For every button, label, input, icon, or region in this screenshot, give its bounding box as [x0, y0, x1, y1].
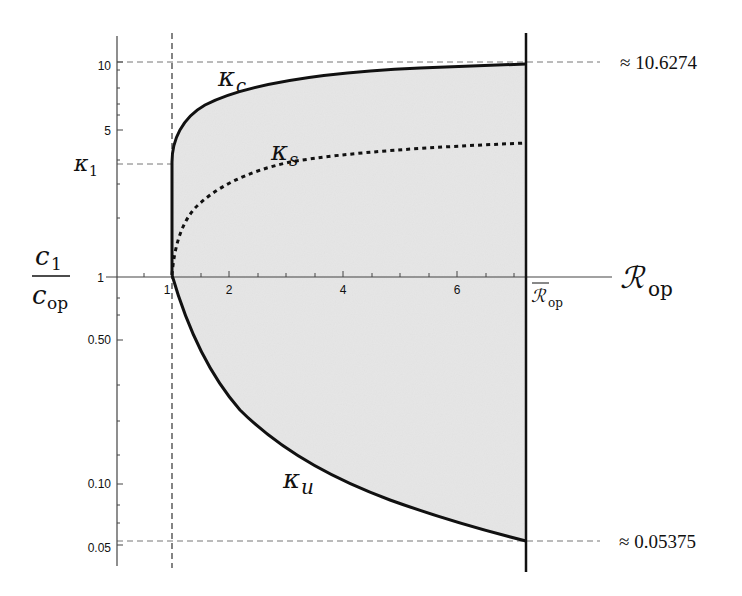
x-tick-6: 6 — [454, 283, 461, 297]
y-ticks — [117, 62, 123, 545]
svg-text:1: 1 — [51, 254, 62, 274]
svg-text:s: s — [289, 149, 298, 170]
svg-text:c: c — [236, 75, 246, 96]
svg-text:u: u — [301, 475, 314, 499]
kappa-u-label: κ u — [282, 464, 314, 499]
y-tick-0.10: 0.10 — [88, 477, 112, 491]
chart-svg: 10 5 1 0.50 0.10 0.05 1 2 4 6 κ 1 κ c κ … — [0, 0, 742, 596]
y-tick-5: 5 — [104, 124, 111, 138]
chart-figure: 10 5 1 0.50 0.10 0.05 1 2 4 6 κ 1 κ c κ … — [0, 0, 742, 596]
kappa-c-label: κ c — [217, 62, 246, 96]
region-texture — [172, 64, 526, 541]
rbar-label: ℛ op — [531, 283, 563, 310]
x-tick-4: 4 — [340, 283, 347, 297]
y-tick-1: 1 — [97, 271, 104, 285]
svg-text:op: op — [47, 293, 68, 313]
svg-text:κ: κ — [217, 62, 235, 92]
lower-value-annotation: ≈ 0.05375 — [619, 531, 696, 552]
svg-text:ℛ: ℛ — [620, 261, 646, 294]
svg-text:κ: κ — [282, 464, 300, 494]
svg-text:1: 1 — [89, 163, 98, 179]
y-axis-label: c 1 c op — [32, 241, 70, 313]
y-tick-10: 10 — [98, 59, 112, 73]
y-tick-0.05: 0.05 — [88, 541, 112, 555]
x-tick-2: 2 — [226, 283, 233, 297]
svg-text:ℛ: ℛ — [531, 286, 547, 306]
svg-text:c: c — [35, 241, 50, 271]
svg-text:κ: κ — [270, 136, 288, 166]
svg-text:op: op — [648, 277, 673, 301]
x-axis-label: ℛ op — [620, 261, 673, 301]
kappa-1-label: κ 1 — [73, 151, 98, 179]
x-tick-1: 1 — [164, 283, 171, 297]
svg-text:κ: κ — [73, 151, 89, 176]
svg-text:op: op — [548, 296, 563, 310]
svg-text:c: c — [32, 280, 47, 310]
y-tick-0.50: 0.50 — [88, 333, 112, 347]
upper-value-annotation: ≈ 10.6274 — [620, 52, 697, 73]
